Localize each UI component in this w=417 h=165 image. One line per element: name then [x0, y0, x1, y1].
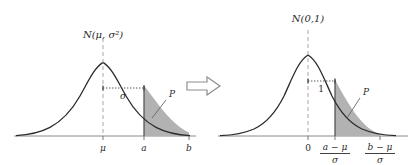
left-shaded-probability-area — [144, 86, 189, 136]
right-tick-label-mean: 0 — [305, 143, 311, 153]
right-chart-panel: N(0,1) 1 P 0 a − μ σ b − μ σ — [208, 0, 417, 165]
left-chart-panel: N(μ, σ²) σ P μ a b — [0, 0, 208, 165]
left-tick-label-mean: μ — [100, 143, 106, 153]
right-tick-label-lower-bound: a − μ σ — [320, 142, 350, 165]
right-tick-label-upper-bound: b − μ σ — [365, 142, 395, 165]
right-tick-lower-denominator: σ — [332, 155, 339, 165]
right-tick-upper-numerator: b − μ — [368, 142, 393, 152]
right-panel-title: N(0,1) — [291, 13, 325, 24]
left-panel-title: N(μ, σ²) — [82, 29, 123, 40]
normal-standardization-figure: N(μ, σ²) σ P μ a b — [0, 0, 417, 165]
left-tick-label-lower-bound: a — [141, 143, 146, 153]
right-shaded-probability-area — [335, 80, 380, 137]
left-tick-label-upper-bound: b — [186, 143, 192, 153]
right-unit-label: 1 — [318, 84, 324, 94]
right-tick-upper-denominator: σ — [377, 155, 384, 165]
left-probability-label: P — [168, 89, 176, 99]
right-tick-lower-numerator: a − μ — [323, 142, 348, 152]
left-sigma-label: σ — [120, 91, 127, 101]
right-probability-label: P — [362, 87, 370, 97]
